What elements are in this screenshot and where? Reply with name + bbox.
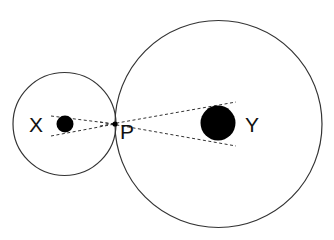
tangent-point-p: [112, 121, 117, 126]
large-body-y: [201, 106, 236, 141]
label-y: Y: [245, 113, 259, 136]
label-p: P: [120, 120, 134, 143]
two-circles-diagram: X P Y: [0, 0, 334, 240]
small-body-x: [57, 116, 74, 133]
label-x: X: [29, 113, 43, 136]
